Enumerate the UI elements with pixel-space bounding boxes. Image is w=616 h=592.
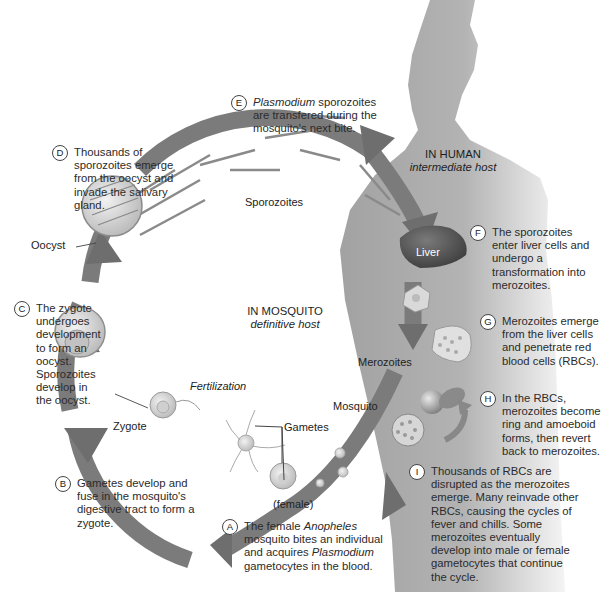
- step-description: Plasmodium sporozoites are transfered du…: [253, 96, 381, 136]
- label-fertilization: Fertilization: [190, 380, 246, 392]
- step-g: G Merozoites emerge from the liver cells…: [480, 315, 610, 368]
- step-description: Thousands of sporozoites emerge from the…: [74, 146, 192, 212]
- step-i: I Thousands of RBCs are disrupted as the…: [409, 465, 579, 584]
- step-badge: C: [14, 301, 30, 317]
- step-badge: I: [409, 464, 425, 480]
- mosquito-host-title: IN MOSQUITO definitive host: [220, 305, 350, 331]
- step-b: B Gametes develop and fuse in the mosqui…: [55, 477, 205, 530]
- step-badge: G: [480, 314, 496, 330]
- mosquito-host-subtitle: definitive host: [220, 318, 350, 331]
- step-description: Gametes develop and fuse in the mosquito…: [77, 477, 205, 530]
- label-merozoites: Merozoites: [358, 356, 412, 368]
- zygote: [150, 392, 200, 418]
- step-badge: D: [52, 145, 68, 161]
- step-badge: E: [231, 95, 247, 111]
- step-badge: H: [480, 391, 496, 407]
- step-description: The sporozoites enter liver cells and un…: [492, 226, 590, 292]
- human-host-title: IN HUMAN intermediate host: [398, 148, 508, 174]
- malaria-life-cycle-diagram: IN HUMAN intermediate host IN MOSQUITO d…: [0, 0, 616, 592]
- human-host-subtitle: intermediate host: [398, 161, 508, 174]
- step-badge: F: [470, 225, 486, 241]
- mosquito-host-label: IN MOSQUITO: [247, 305, 323, 317]
- label-mosquito: Mosquito: [333, 400, 378, 412]
- step-badge: A: [222, 519, 238, 535]
- label-gametes: Gametes: [284, 421, 329, 433]
- step-e: E Plasmodium sporozoites are transfered …: [231, 96, 381, 136]
- step-f: F The sporozoites enter liver cells and …: [470, 226, 590, 292]
- human-host-label: IN HUMAN: [425, 148, 481, 160]
- label-oocyst: Oocyst: [31, 239, 65, 251]
- female-gamete: [270, 463, 296, 489]
- male-gamete: [226, 410, 285, 472]
- step-description: In the RBCs, merozoites become ring and …: [502, 392, 610, 458]
- step-h: H In the RBCs, merozoites become ring an…: [480, 392, 610, 458]
- step-d: D Thousands of sporozoites emerge from t…: [52, 146, 192, 212]
- step-c: C The zygote undergoes development to fo…: [14, 302, 104, 408]
- step-badge: B: [55, 476, 71, 492]
- step-description: Merozoites emerge from the liver cells a…: [502, 315, 610, 368]
- label-female: (female): [273, 498, 313, 510]
- label-sporozoites: Sporozoites: [245, 196, 303, 208]
- step-description: The female Anopheles mosquito bites an i…: [244, 520, 392, 573]
- step-a: A The female Anopheles mosquito bites an…: [222, 520, 392, 573]
- label-zygote: Zygote: [113, 420, 147, 432]
- step-description: The zygote undergoes development to form…: [36, 302, 104, 408]
- label-liver: Liver: [416, 246, 440, 258]
- step-description: Thousands of RBCs are disrupted as the m…: [431, 465, 579, 584]
